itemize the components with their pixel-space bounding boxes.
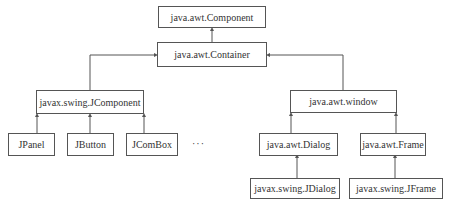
class-hierarchy-diagram: java.awt.Component java.awt.Container ja…	[0, 0, 451, 207]
node-javax-swing-jcomponent: javax.swing.JComponent	[36, 90, 144, 114]
ellipsis-more-classes: ···	[192, 138, 205, 149]
node-java-awt-window: java.awt.window	[290, 90, 397, 113]
node-javax-swing-jdialog: javax.swing.JDialog	[250, 178, 340, 199]
edge-jcomponent-container	[90, 55, 156, 90]
node-java-awt-dialog: java.awt.Dialog	[259, 133, 338, 156]
node-jcombox: JComBox	[126, 133, 178, 156]
node-jbutton: JButton	[67, 133, 114, 156]
edge-window-container	[268, 55, 343, 90]
node-java-awt-component: java.awt.Component	[158, 6, 266, 28]
node-jpanel: JPanel	[8, 133, 55, 156]
node-javax-swing-jframe: javax.swing.JFrame	[349, 178, 443, 199]
node-java-awt-frame: java.awt.Frame	[360, 133, 426, 156]
node-java-awt-container: java.awt.Container	[157, 42, 267, 67]
